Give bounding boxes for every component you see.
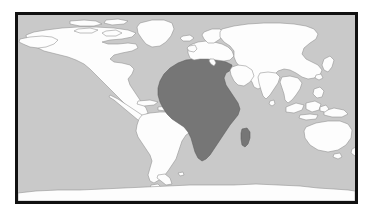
world-map-svg bbox=[18, 15, 355, 201]
map-frame bbox=[15, 12, 358, 204]
region-java bbox=[299, 114, 318, 120]
world-map-figure bbox=[0, 0, 372, 216]
region-borneo bbox=[306, 101, 321, 112]
